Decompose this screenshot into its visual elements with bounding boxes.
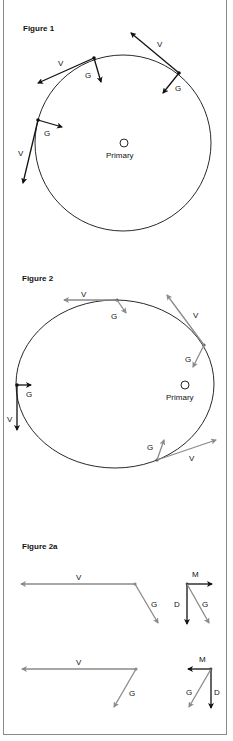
g-label: G	[147, 443, 153, 452]
velocity-arrow	[157, 440, 216, 460]
m-label: M	[199, 655, 206, 664]
figure-2: Figure 2 Primary V G V G V G	[7, 274, 216, 468]
figure-2a: Figure 2a V G M D G V G M	[21, 542, 220, 708]
decomposition-row-2: V G M D G	[22, 655, 220, 708]
g-label: G	[151, 600, 157, 609]
primary-body-icon	[181, 381, 189, 389]
decomposition-row-1: V G M D G	[21, 570, 212, 624]
g-label: G	[185, 355, 191, 364]
g-label: G	[26, 390, 32, 399]
v-label: V	[18, 149, 24, 158]
g-label: G	[85, 71, 91, 80]
primary-label: Primary	[166, 393, 194, 402]
vector-pair-top: V G	[64, 290, 126, 321]
v-label: V	[157, 40, 163, 49]
g-label: G	[44, 129, 50, 138]
orbit-diagram: Figure 1 Primary V G V G V G	[0, 0, 233, 741]
gravity-arrow	[38, 120, 62, 127]
velocity-arrow	[167, 295, 204, 345]
gravity-arrow	[193, 345, 204, 367]
v-label: V	[76, 573, 82, 582]
primary-body-icon	[120, 139, 128, 147]
g-label: G	[175, 84, 181, 93]
gravity-arrow	[189, 669, 211, 707]
gravity-arrow	[117, 300, 126, 313]
figure-1-title: Figure 1	[23, 24, 55, 33]
v-label: V	[7, 415, 13, 424]
g-label: G	[129, 689, 135, 698]
g-label: G	[202, 600, 208, 609]
figure-2a-title: Figure 2a	[22, 542, 58, 551]
velocity-arrow	[131, 33, 179, 73]
vector-pair-lower-right: V G	[147, 440, 216, 463]
vector-pair-upper-left: V G	[38, 56, 101, 83]
v-label: V	[76, 658, 82, 667]
gravity-arrow	[114, 669, 136, 707]
gravity-arrow	[157, 440, 164, 460]
m-label: M	[192, 570, 199, 579]
figure-1: Figure 1 Primary V G V G V G	[18, 24, 211, 231]
g-label: G	[186, 688, 192, 697]
d-label: D	[174, 600, 180, 609]
figure-2-title: Figure 2	[22, 274, 54, 283]
v-label: V	[81, 290, 87, 299]
primary-label: Primary	[106, 151, 134, 160]
v-label: V	[193, 311, 199, 320]
d-label: D	[214, 688, 220, 697]
vector-pair-upper-right: V G	[131, 33, 181, 93]
g-label: G	[111, 312, 117, 321]
v-label: V	[189, 454, 195, 463]
vector-pair-upper-right: V G	[167, 295, 206, 367]
v-label: V	[58, 59, 64, 68]
gravity-arrow	[94, 58, 101, 82]
